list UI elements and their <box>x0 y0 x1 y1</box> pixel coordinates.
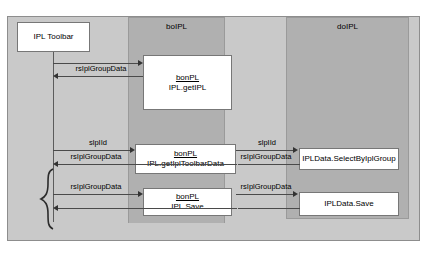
message-m7-arrowhead <box>138 191 143 197</box>
activation-bo-getipl[interactable]: bonPL IPL.getIPL <box>143 55 232 110</box>
message-m5-label: slpIId <box>237 138 297 147</box>
participant-label: IPL Toolbar <box>33 32 73 42</box>
message-m2-line <box>57 76 143 77</box>
activation-do-selectbyiplgroup[interactable]: IPLData.SelectByIplGroup <box>299 148 399 170</box>
sequence-diagram: boIPL doIPL IPL Toolbar bonPL IPL.getIPL… <box>0 0 434 257</box>
lane-doipl-title: doIPL <box>287 22 408 31</box>
message-m10-line <box>238 208 300 209</box>
message-m3-label: slpIId <box>58 138 138 147</box>
lane-doipl: doIPL <box>286 17 409 219</box>
message-m4-line <box>57 164 237 165</box>
message-m9-line <box>236 194 294 195</box>
operation-label: IPLData.SelectByIplGroup <box>302 154 395 164</box>
activation-do-save[interactable]: IPLData.Save <box>299 192 399 216</box>
message-m9-arrowhead <box>293 191 298 197</box>
activation-bo-getipltoolbardata[interactable]: bonPL IPL.getIplToolbarData <box>135 144 236 174</box>
message-m2-arrowhead <box>53 73 58 79</box>
stereotype-label: bonPL <box>174 149 197 159</box>
message-m6-line <box>238 164 300 165</box>
lane-boipl-title: boIPL <box>129 22 224 31</box>
message-m4-arrowhead <box>53 161 58 167</box>
stereotype-label: bonPL <box>176 73 199 83</box>
participant-ipl-toolbar[interactable]: IPL Toolbar <box>17 22 90 52</box>
message-m7-label: rsIplGroupData <box>55 182 137 191</box>
message-m4-label: rsIplGroupData <box>55 152 137 161</box>
message-m8-line <box>57 208 237 209</box>
message-m2-label: rsIplGroupData <box>58 64 144 73</box>
message-m5-line <box>236 150 294 151</box>
grouping-brace <box>36 168 58 230</box>
activation-bo-save[interactable]: bonPL IPL.Save <box>143 188 232 216</box>
operation-label: IPL.Save <box>171 202 203 212</box>
stereotype-label: bonPL <box>176 192 199 202</box>
message-m3-line <box>53 150 131 151</box>
message-m7-line <box>53 194 139 195</box>
message-m6-label: rsIplGroupData <box>232 152 300 161</box>
message-m9-label: rsIplGroupData <box>232 182 300 191</box>
operation-label: IPLData.Save <box>324 199 373 209</box>
operation-label: IPL.getIPL <box>169 83 206 93</box>
